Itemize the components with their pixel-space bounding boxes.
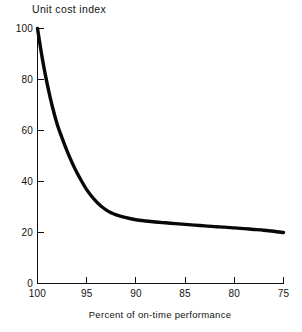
x-tick-label-80: 80	[229, 288, 241, 299]
y-tick-label-40: 40	[21, 176, 33, 187]
x-tick-label-100: 100	[29, 288, 47, 299]
x-axis-title: Percent of on-time performance	[89, 309, 232, 320]
chart-background	[0, 0, 302, 332]
unit-cost-index-line-chart: Unit cost index 100 80 60 40 20 0	[0, 0, 302, 332]
y-tick-label-20: 20	[21, 227, 33, 238]
x-tick-label-95: 95	[81, 288, 93, 299]
y-tick-label-80: 80	[21, 74, 33, 85]
y-tick-label-100: 100	[16, 23, 34, 34]
x-tick-label-85: 85	[179, 288, 191, 299]
y-axis-title: Unit cost index	[32, 3, 107, 15]
y-tick-label-60: 60	[21, 125, 33, 136]
chart-container: Unit cost index 100 80 60 40 20 0	[0, 0, 302, 332]
x-tick-label-75: 75	[278, 288, 290, 299]
x-tick-label-90: 90	[130, 288, 142, 299]
